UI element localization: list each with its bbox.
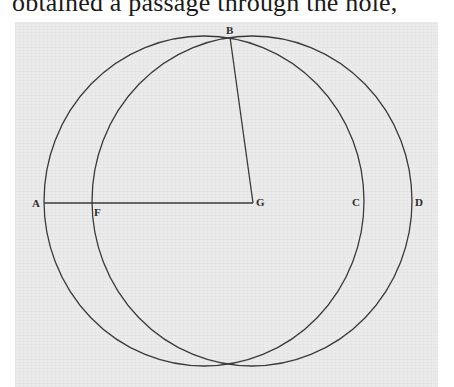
geometry-figure: B A F G C D bbox=[0, 0, 454, 387]
label-G: G bbox=[256, 196, 265, 208]
label-D: D bbox=[415, 196, 423, 208]
label-F: F bbox=[94, 206, 101, 218]
label-C: C bbox=[352, 196, 360, 208]
label-A: A bbox=[32, 197, 40, 209]
line-B-G bbox=[230, 37, 253, 203]
label-B: B bbox=[226, 24, 234, 36]
